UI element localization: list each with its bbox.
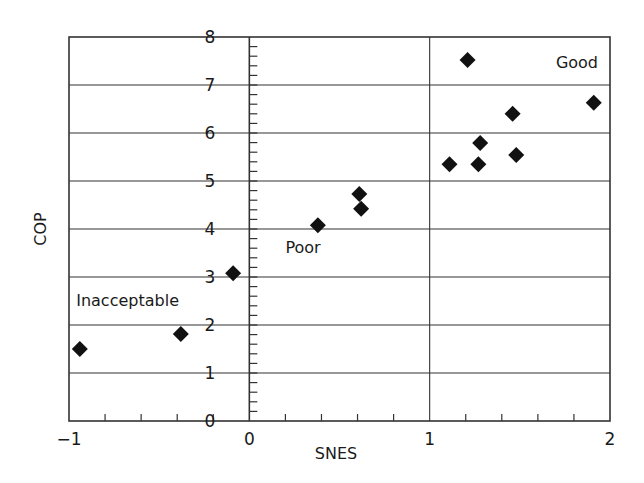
x-tick-label: 0 [244,429,255,449]
region-label: Good [556,53,598,72]
y-tick-label: 7 [205,75,216,95]
region-label: Poor [285,238,321,257]
diamond-marker [508,147,524,163]
y-tick-label: 3 [205,267,216,287]
x-tick-label: −1 [56,429,81,449]
diamond-marker [470,156,486,172]
region-label: Inacceptable [76,291,179,310]
diamond-marker [442,156,458,172]
diamond-marker [72,341,88,357]
data-points [72,52,602,357]
y-tick-label: 6 [205,123,216,143]
gridlines [69,37,610,421]
y-tick-label: 5 [205,171,216,191]
x-tick-label: 2 [605,429,616,449]
diamond-marker [505,106,521,122]
diamond-marker [173,326,189,342]
y-tick-label: 0 [205,411,216,431]
tick-labels: 012345678−1012 [56,27,615,449]
diamond-marker [351,186,367,202]
diamond-marker [225,265,241,281]
diamond-marker [310,217,326,233]
y-axis-title: COP [31,212,50,246]
scatter-chart: 012345678−1012 InacceptablePoorGood SNES… [0,0,644,483]
diamond-marker [353,201,369,217]
x-tick-label: 1 [424,429,435,449]
y-tick-label: 1 [205,363,216,383]
x-axis-title: SNES [315,444,357,463]
y-tick-label: 4 [205,219,216,239]
diamond-marker [460,52,476,68]
diamond-marker [586,95,602,111]
y-tick-label: 2 [205,315,216,335]
y-tick-label: 8 [205,27,216,47]
diamond-marker [472,135,488,151]
axis-ticks [105,47,574,421]
